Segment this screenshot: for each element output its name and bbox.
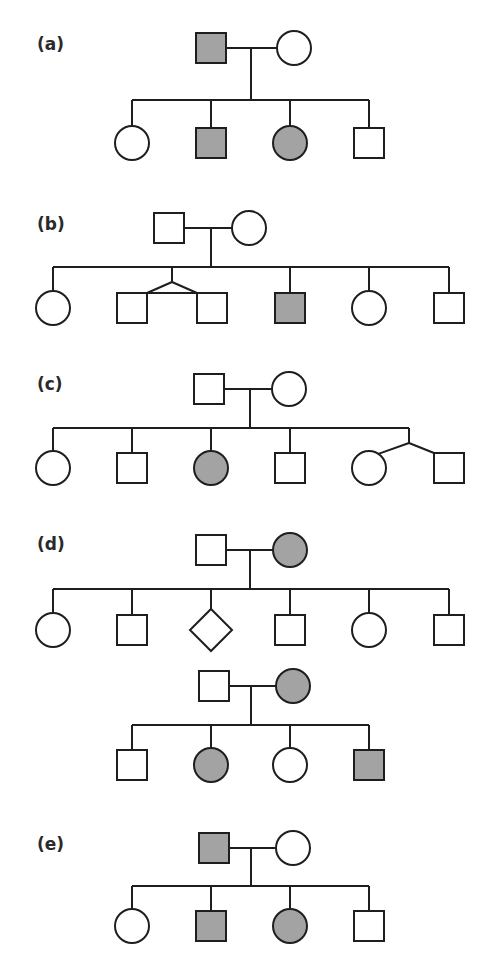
affected-female-circle-icon: [194, 748, 228, 782]
pedigree-family: [36, 372, 464, 485]
affected-female-circle-icon: [273, 909, 307, 943]
unaffected-male-square-icon: [434, 453, 464, 483]
unaffected-female-circle-icon: [36, 613, 70, 647]
panel-d: (d): [36, 533, 464, 782]
pedigree-family: [117, 669, 384, 782]
pedigree-family: [115, 831, 384, 943]
panel-a: (a): [37, 31, 384, 160]
unaffected-male-square-icon: [354, 128, 384, 158]
twin-branch-line: [378, 443, 409, 454]
unaffected-female-circle-icon: [277, 31, 311, 65]
unaffected-female-circle-icon: [36, 291, 70, 325]
unaffected-female-circle-icon: [272, 372, 306, 406]
unaffected-male-square-icon: [117, 750, 147, 780]
unaffected-male-square-icon: [275, 615, 305, 645]
unaffected-female-circle-icon: [36, 451, 70, 485]
unaffected-female-circle-icon: [352, 291, 386, 325]
affected-male-square-icon: [275, 293, 305, 323]
pedigree-family: [36, 211, 464, 325]
pedigree-figure: (a)(b)(c)(d)(e): [0, 0, 497, 976]
unaffected-male-square-icon: [199, 671, 229, 701]
unaffected-female-circle-icon: [276, 831, 310, 865]
affected-male-square-icon: [196, 911, 226, 941]
unaffected-unknown-sex-diamond-icon: [190, 609, 232, 651]
twin-branch-line: [409, 443, 434, 453]
panel-b: (b): [36, 211, 464, 325]
unaffected-male-square-icon: [196, 535, 226, 565]
affected-male-square-icon: [196, 33, 226, 63]
unaffected-female-circle-icon: [115, 126, 149, 160]
unaffected-male-square-icon: [117, 615, 147, 645]
unaffected-male-square-icon: [197, 293, 227, 323]
unaffected-male-square-icon: [117, 293, 147, 323]
pedigree-root: (a)(b)(c)(d)(e): [36, 31, 464, 943]
unaffected-male-square-icon: [117, 453, 147, 483]
panel-label: (e): [37, 834, 64, 854]
twin-branch-line: [172, 282, 197, 293]
unaffected-female-circle-icon: [115, 909, 149, 943]
unaffected-female-circle-icon: [232, 211, 266, 245]
pedigree-family: [115, 31, 384, 160]
unaffected-female-circle-icon: [273, 748, 307, 782]
panel-label: (a): [37, 34, 64, 54]
unaffected-male-square-icon: [434, 293, 464, 323]
panel-label: (c): [37, 374, 63, 394]
affected-female-circle-icon: [273, 533, 307, 567]
affected-female-circle-icon: [276, 669, 310, 703]
panel-e: (e): [37, 831, 384, 943]
unaffected-female-circle-icon: [352, 613, 386, 647]
affected-male-square-icon: [196, 128, 226, 158]
unaffected-male-square-icon: [154, 213, 184, 243]
affected-male-square-icon: [199, 833, 229, 863]
unaffected-male-square-icon: [434, 615, 464, 645]
affected-female-circle-icon: [273, 126, 307, 160]
unaffected-male-square-icon: [194, 374, 224, 404]
pedigree-family: [36, 533, 464, 651]
unaffected-female-circle-icon: [352, 451, 386, 485]
panel-label: (b): [37, 214, 65, 234]
unaffected-male-square-icon: [275, 453, 305, 483]
panel-c: (c): [36, 372, 464, 485]
twin-branch-line: [147, 282, 172, 293]
unaffected-male-square-icon: [354, 911, 384, 941]
affected-male-square-icon: [354, 750, 384, 780]
panel-label: (d): [37, 534, 65, 554]
affected-female-circle-icon: [194, 451, 228, 485]
